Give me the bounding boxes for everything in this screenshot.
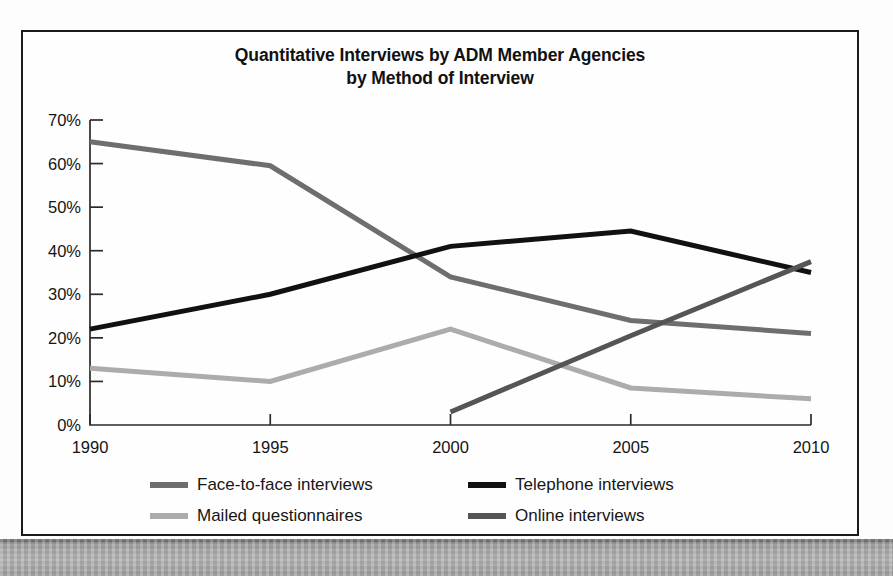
legend-item-telephone-interviews[interactable]: Telephone interviews xyxy=(468,475,748,495)
legend-swatch-icon xyxy=(468,513,506,519)
scan-edge-artifact xyxy=(0,539,893,576)
y-axis-tick-label: 50% xyxy=(48,198,81,216)
x-axis-tick-label: 2005 xyxy=(612,438,649,456)
legend-row: Face-to-face interviewsTelephone intervi… xyxy=(150,469,750,500)
scanned-page: Quantitative Interviews by ADM Member Ag… xyxy=(0,0,893,576)
y-axis-tick-label: 0% xyxy=(57,416,81,434)
legend-label: Mailed questionnaires xyxy=(197,506,362,526)
x-axis-tick-label: 2000 xyxy=(432,438,469,456)
series-group xyxy=(90,142,811,412)
legend-label: Online interviews xyxy=(515,506,644,526)
plot-area: 0%10%20%30%40%50%60%70% 1990199520002005… xyxy=(21,30,859,536)
y-axis-tick-label: 20% xyxy=(48,329,81,347)
line-chart-svg: 0%10%20%30%40%50%60%70% 1990199520002005… xyxy=(21,30,859,536)
series-line-mailed-questionnaires xyxy=(90,329,811,399)
series-line-telephone-interviews xyxy=(90,231,811,329)
legend-item-online-interviews[interactable]: Online interviews xyxy=(468,506,748,526)
legend-swatch-icon xyxy=(150,482,188,488)
y-axis-tick-label: 30% xyxy=(48,285,81,303)
legend-swatch-icon xyxy=(150,513,188,519)
legend-label: Telephone interviews xyxy=(515,475,674,495)
y-axis-tick-label: 40% xyxy=(48,242,81,260)
y-axis-tick-label: 60% xyxy=(48,155,81,173)
legend-item-face-to-face-interviews[interactable]: Face-to-face interviews xyxy=(150,475,468,495)
scan-edge-texture xyxy=(0,539,893,576)
y-axis-tick-label: 10% xyxy=(48,372,81,390)
y-axis-tick-group: 0%10%20%30%40%50%60%70% xyxy=(48,111,103,434)
legend-label: Face-to-face interviews xyxy=(197,475,373,495)
chart-legend: Face-to-face interviewsTelephone intervi… xyxy=(150,469,750,531)
legend-item-mailed-questionnaires[interactable]: Mailed questionnaires xyxy=(150,506,468,526)
legend-swatch-icon xyxy=(468,482,506,488)
legend-row: Mailed questionnairesOnline interviews xyxy=(150,500,750,531)
y-axis-tick-label: 70% xyxy=(48,111,81,129)
x-axis-tick-label: 1990 xyxy=(72,438,109,456)
x-axis-tick-label: 1995 xyxy=(252,438,289,456)
axis-lines xyxy=(90,120,811,425)
x-axis-tick-label: 2010 xyxy=(793,438,830,456)
x-axis-tick-group: 19901995200020052010 xyxy=(72,414,830,456)
